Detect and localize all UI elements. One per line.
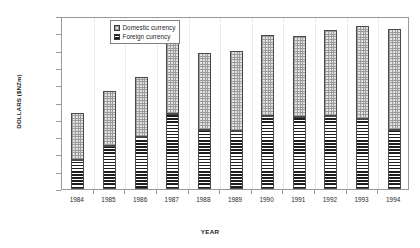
bar-segment-domestic-currency[interactable] (388, 29, 401, 130)
x-axis-title: YEAR (0, 228, 420, 235)
x-axis-tick-label: 1993 (354, 196, 368, 203)
bar-segment-foreign-currency[interactable] (261, 116, 274, 189)
x-axis-tick-mark (314, 190, 315, 194)
category-separator (252, 18, 253, 189)
x-axis-tick-label: 1987 (165, 196, 179, 203)
legend-swatch-foreign-icon (114, 34, 120, 40)
bar-group[interactable] (230, 51, 243, 189)
y-axis-tick-mark (56, 34, 61, 35)
y-axis-tick-mark (56, 138, 61, 139)
x-axis-tick-mark (188, 190, 189, 194)
bar-segment-domestic-currency[interactable] (293, 36, 306, 117)
chart-legend: Domestic currency Foreign currency (110, 20, 180, 44)
bar-segment-foreign-currency[interactable] (388, 130, 401, 189)
category-separator (94, 18, 95, 189)
bar-segment-foreign-currency[interactable] (103, 146, 116, 189)
category-separator (315, 18, 316, 189)
bar-segment-foreign-currency[interactable] (230, 131, 243, 189)
bar-group[interactable] (356, 26, 369, 189)
y-axis-tick-mark (56, 173, 61, 174)
x-axis-tick-label: 1989 (228, 196, 242, 203)
category-separator (189, 18, 190, 189)
x-axis-tick-label: 1990 (260, 196, 274, 203)
x-axis-tick-mark (282, 190, 283, 194)
bar-segment-domestic-currency[interactable] (230, 51, 243, 132)
bar-group[interactable] (324, 30, 337, 189)
bar-group[interactable] (293, 36, 306, 189)
x-axis-tick-label: 1984 (70, 196, 84, 203)
bar-group[interactable] (388, 29, 401, 189)
bar-segment-foreign-currency[interactable] (198, 130, 211, 189)
bar-segment-foreign-currency[interactable] (166, 114, 179, 189)
y-axis-tick-mark (56, 17, 61, 18)
x-axis-tick-mark (219, 190, 220, 194)
bar-group[interactable] (103, 91, 116, 189)
y-axis-tick-mark (56, 86, 61, 87)
bar-segment-foreign-currency[interactable] (324, 116, 337, 189)
bar-segment-foreign-currency[interactable] (293, 117, 306, 189)
x-axis-tick-label: 1986 (133, 196, 147, 203)
x-axis-tick-mark (93, 190, 94, 194)
bar-segment-domestic-currency[interactable] (103, 91, 116, 147)
x-axis-tick-label: 1991 (291, 196, 305, 203)
bar-group[interactable] (261, 35, 274, 189)
bar-group[interactable] (71, 113, 84, 189)
bar-group[interactable] (135, 77, 148, 189)
x-axis-tick-mark (124, 190, 125, 194)
legend-item-domestic: Domestic currency (114, 23, 175, 32)
x-axis-tick-mark (346, 190, 347, 194)
category-separator (347, 18, 348, 189)
x-axis-tick-label: 1992 (323, 196, 337, 203)
category-separator (378, 18, 379, 189)
category-separator (283, 18, 284, 189)
bar-segment-domestic-currency[interactable] (324, 30, 337, 117)
bar-group[interactable] (166, 42, 179, 189)
chart-container: DOLLARS ($NZm) YEAR Domestic currency Fo… (0, 0, 420, 248)
y-axis-tick-mark (56, 104, 61, 105)
x-axis-tick-label: 1994 (386, 196, 400, 203)
bar-segment-domestic-currency[interactable] (356, 26, 369, 119)
legend-item-foreign: Foreign currency (114, 32, 175, 41)
y-axis-tick-mark (56, 121, 61, 122)
legend-label-foreign: Foreign currency (123, 32, 171, 41)
category-separator (220, 18, 221, 189)
bar-segment-domestic-currency[interactable] (135, 77, 148, 137)
x-axis-tick-mark (377, 190, 378, 194)
x-axis-tick-label: 1985 (101, 196, 115, 203)
y-axis-tick-mark (56, 190, 61, 191)
y-axis-tick-mark (56, 155, 61, 156)
x-axis-tick-label: 1988 (196, 196, 210, 203)
y-axis-tick-mark (56, 69, 61, 70)
x-axis-tick-mark (251, 190, 252, 194)
x-axis-tick-mark (156, 190, 157, 194)
bar-segment-foreign-currency[interactable] (71, 160, 84, 189)
y-axis-title: DOLLARS ($NZm) (15, 42, 22, 162)
bar-segment-foreign-currency[interactable] (356, 119, 369, 189)
legend-swatch-domestic-icon (114, 25, 120, 31)
bar-segment-domestic-currency[interactable] (261, 35, 274, 117)
bar-segment-domestic-currency[interactable] (198, 53, 211, 129)
bar-segment-domestic-currency[interactable] (71, 113, 84, 160)
y-axis-tick-mark (56, 52, 61, 53)
legend-label-domestic: Domestic currency (123, 23, 176, 32)
bar-group[interactable] (198, 53, 211, 189)
bar-segment-domestic-currency[interactable] (166, 42, 179, 114)
bar-segment-foreign-currency[interactable] (135, 137, 148, 189)
